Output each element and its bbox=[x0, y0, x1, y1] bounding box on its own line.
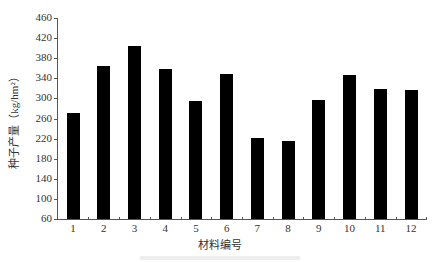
bar-10 bbox=[343, 75, 356, 219]
y-tick-label: 140 bbox=[36, 173, 53, 184]
y-axis bbox=[57, 18, 58, 219]
x-tick-mark bbox=[181, 217, 182, 220]
x-tick-label: 6 bbox=[217, 223, 237, 234]
y-tick-label: 420 bbox=[36, 32, 53, 43]
x-tick-label: 1 bbox=[63, 223, 83, 234]
y-tick-label: 100 bbox=[36, 193, 53, 204]
bar-5 bbox=[189, 101, 202, 219]
y-tick-mark bbox=[54, 119, 57, 120]
x-tick-label: 2 bbox=[94, 223, 114, 234]
bar-chart: 种子产量（kg/hm²） 材料编号 6010014018022026030034… bbox=[0, 0, 437, 262]
y-tick-label: 260 bbox=[36, 113, 53, 124]
y-tick-mark bbox=[54, 58, 57, 59]
y-tick-mark bbox=[54, 38, 57, 39]
y-tick-mark bbox=[54, 139, 57, 140]
x-tick-mark bbox=[211, 217, 212, 220]
bar-1 bbox=[67, 113, 80, 219]
x-tick-label: 7 bbox=[247, 223, 267, 234]
bar-11 bbox=[374, 89, 387, 219]
x-tick-label: 3 bbox=[124, 223, 144, 234]
figure-caption bbox=[140, 256, 300, 260]
y-tick-mark bbox=[54, 179, 57, 180]
bar-2 bbox=[97, 66, 110, 219]
y-tick-mark bbox=[54, 159, 57, 160]
y-tick-label: 60 bbox=[41, 213, 52, 224]
y-tick-label: 300 bbox=[36, 92, 53, 103]
x-tick-mark bbox=[119, 217, 120, 220]
x-tick-label: 12 bbox=[401, 223, 421, 234]
bar-4 bbox=[159, 69, 172, 219]
x-axis-label: 材料编号 bbox=[190, 236, 250, 252]
bar-7 bbox=[251, 138, 264, 219]
y-tick-mark bbox=[54, 98, 57, 99]
y-tick-label: 340 bbox=[36, 72, 53, 83]
y-tick-label: 180 bbox=[36, 153, 53, 164]
x-tick-label: 4 bbox=[155, 223, 175, 234]
y-tick-label: 460 bbox=[36, 12, 53, 23]
bar-8 bbox=[282, 141, 295, 219]
x-tick-label: 5 bbox=[186, 223, 206, 234]
x-tick-label: 9 bbox=[309, 223, 329, 234]
bar-9 bbox=[312, 100, 325, 219]
x-tick-mark bbox=[273, 217, 274, 220]
x-tick-label: 8 bbox=[278, 223, 298, 234]
x-tick-mark bbox=[334, 217, 335, 220]
x-tick-mark bbox=[242, 217, 243, 220]
x-tick-mark bbox=[303, 217, 304, 220]
x-tick-mark bbox=[150, 217, 151, 220]
x-tick-mark bbox=[88, 217, 89, 220]
y-tick-mark bbox=[54, 18, 57, 19]
y-tick-mark bbox=[54, 199, 57, 200]
x-tick-label: 10 bbox=[340, 223, 360, 234]
x-tick-mark bbox=[396, 217, 397, 220]
y-axis-label: 种子产量（kg/hm²） bbox=[5, 65, 21, 175]
bar-6 bbox=[220, 74, 233, 219]
y-tick-mark bbox=[54, 78, 57, 79]
x-tick-mark bbox=[426, 217, 427, 220]
y-tick-mark bbox=[54, 219, 57, 220]
bar-12 bbox=[405, 90, 418, 219]
y-tick-label: 220 bbox=[36, 133, 53, 144]
x-tick-label: 11 bbox=[370, 223, 390, 234]
y-tick-label: 380 bbox=[36, 52, 53, 63]
x-tick-mark bbox=[365, 217, 366, 220]
bar-3 bbox=[128, 46, 141, 219]
